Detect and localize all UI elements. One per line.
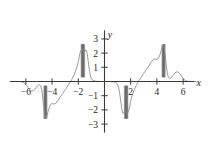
- band-upper-right: [162, 44, 166, 77]
- y-tick-label: 3: [93, 34, 98, 44]
- x-tick-label: −4: [47, 87, 57, 97]
- y-tick-label: −2: [88, 105, 98, 115]
- y-tick-label: 2: [93, 49, 98, 59]
- function-plot-figure: −6−4−2246321−1−2−3 x y: [0, 0, 217, 154]
- x-tick-label: −2: [73, 87, 83, 97]
- plot-canvas: −6−4−2246321−1−2−3 x y: [0, 0, 217, 154]
- y-tick-label: −3: [88, 120, 98, 130]
- band-upper-left: [81, 44, 86, 77]
- x-tick-label: 6: [181, 87, 186, 97]
- x-tick-label: 4: [155, 87, 160, 97]
- axes-layer: [10, 30, 194, 132]
- y-axis-label: y: [107, 29, 113, 40]
- x-axis-label: x: [195, 77, 201, 88]
- y-tick-label: 1: [93, 63, 98, 73]
- y-tick-label: −1: [88, 91, 98, 101]
- x-tick-label: −6: [21, 87, 31, 97]
- x-tick-label: 2: [128, 87, 133, 97]
